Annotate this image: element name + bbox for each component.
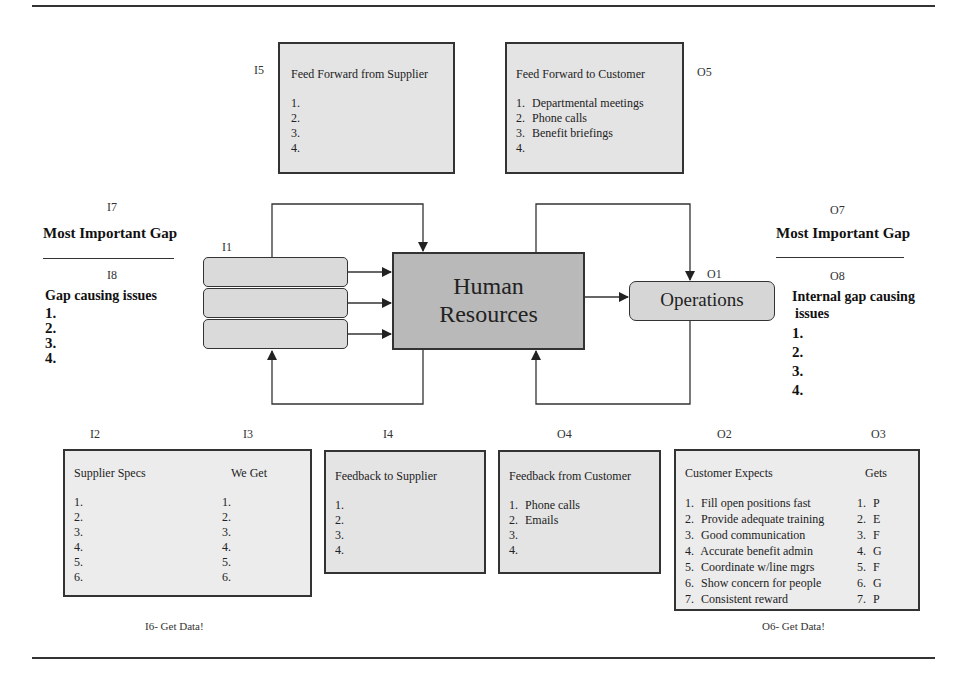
list-item: 6. (74, 570, 83, 585)
list-item: 1. (222, 495, 231, 510)
list-item: 3. (335, 528, 344, 543)
list-item: 5. (74, 555, 83, 570)
feedback-supplier-title: Feedback to Supplier (335, 469, 437, 484)
list-item: 5. Coordinate w/line mgrs (685, 559, 824, 575)
label-o5: O5 (697, 65, 712, 80)
label-o1: O1 (707, 267, 722, 282)
feed-forward-customer-list: 1. Departmental meetings 2. Phone calls … (516, 96, 644, 156)
feed-forward-supplier-title: Feed Forward from Supplier (291, 67, 428, 82)
label-o7: O7 (830, 203, 845, 218)
label-i8: I8 (107, 268, 117, 283)
hr-title-line2: Resources (394, 300, 583, 328)
list-item: 4. (45, 351, 56, 366)
customer-expects-list: 1. Fill open positions fast 2. Provide a… (685, 495, 824, 607)
list-item: 4. Accurate benefit admin (685, 543, 824, 559)
list-item: 6. (222, 570, 231, 585)
list-item: 4. (509, 543, 580, 558)
list-item: 2. (792, 345, 803, 364)
list-item: 3. Good communication (685, 527, 824, 543)
list-item: 1. (291, 96, 300, 111)
supplier-specs-title: Supplier Specs (74, 466, 146, 481)
label-o2: O2 (717, 427, 732, 442)
customer-expects-box: Customer Expects Gets 1. Fill open posit… (674, 449, 920, 611)
list-item: 1. (335, 498, 344, 513)
feedback-supplier-box: Feedback to Supplier 1. 2. 3. 4. (324, 450, 486, 574)
o6-get-data: O6- Get Data! (762, 620, 825, 632)
list-item: 3. (222, 525, 231, 540)
list-item: 3. Benefit briefings (516, 126, 644, 141)
list-item: 4. (291, 141, 300, 156)
label-i7: I7 (107, 200, 117, 215)
list-item: 4. (792, 383, 803, 402)
list-item: 1. P (857, 495, 882, 511)
input-row-3 (203, 319, 348, 349)
list-item: 4. (74, 540, 83, 555)
list-item: 7. P (857, 591, 882, 607)
label-i5: I5 (254, 63, 264, 78)
list-item: 2. (335, 513, 344, 528)
human-resources-box: Human Resources (392, 252, 585, 350)
list-item: 3. (74, 525, 83, 540)
feed-forward-customer-title: Feed Forward to Customer (516, 67, 645, 82)
list-item: 3. (509, 528, 580, 543)
operations-box: Operations (629, 281, 775, 321)
list-item: 4. (516, 141, 644, 156)
feedback-customer-list: 1. Phone calls 2. Emails 3. 4. (509, 498, 580, 558)
input-row-2 (203, 288, 348, 318)
list-item: 1. Departmental meetings (516, 96, 644, 111)
left-gap-list: 1. 2. 3. 4. (45, 306, 56, 366)
right-gap-subtitle-2: issues (795, 306, 829, 322)
list-item: 2. (74, 510, 83, 525)
we-get-list: 1. 2. 3. 4. 5. 6. (222, 495, 231, 585)
label-o8: O8 (830, 269, 845, 284)
list-item: 2. (45, 321, 56, 336)
label-o4: O4 (557, 427, 572, 442)
supplier-specs-box: Supplier Specs We Get 1. 2. 3. 4. 5. 6. … (63, 449, 312, 597)
label-i2: I2 (90, 427, 100, 442)
list-item: 2. Provide adequate training (685, 511, 824, 527)
right-gap-subtitle-1: Internal gap causing (792, 289, 915, 305)
right-gap-title: Most Important Gap (776, 225, 910, 242)
gets-list: 1. P 2. E 3. F 4. G 5. F 6. G 7. P (857, 495, 882, 607)
left-gap-subtitle: Gap causing issues (45, 288, 157, 304)
right-gap-divider (776, 257, 904, 258)
left-gap-title: Most Important Gap (43, 225, 177, 242)
list-item: 5. (222, 555, 231, 570)
left-gap-divider (43, 258, 174, 259)
list-item: 2. E (857, 511, 882, 527)
feedback-customer-box: Feedback from Customer 1. Phone calls 2.… (498, 450, 661, 574)
input-row-1 (203, 257, 348, 287)
feed-forward-supplier-box: Feed Forward from Supplier 1. 2. 3. 4. (278, 42, 455, 174)
list-item: 2. (291, 111, 300, 126)
list-item: 3. (792, 364, 803, 383)
feed-forward-supplier-list: 1. 2. 3. 4. (291, 96, 300, 156)
list-item: 1. (792, 326, 803, 345)
right-gap-list: 1. 2. 3. 4. (792, 326, 803, 402)
list-item: 6. Show concern for people (685, 575, 824, 591)
label-i4: I4 (383, 427, 393, 442)
list-item: 5. F (857, 559, 882, 575)
list-item: 2. Phone calls (516, 111, 644, 126)
customer-expects-title: Customer Expects (685, 466, 773, 481)
feedback-customer-title: Feedback from Customer (509, 469, 631, 484)
list-item: 1. Fill open positions fast (685, 495, 824, 511)
hr-title-line1: Human (394, 272, 583, 300)
gets-title: Gets (865, 466, 887, 481)
list-item: 4. (335, 543, 344, 558)
list-item: 3. (291, 126, 300, 141)
we-get-title: We Get (231, 466, 267, 481)
label-o3: O3 (871, 427, 886, 442)
supplier-specs-list: 1. 2. 3. 4. 5. 6. (74, 495, 83, 585)
list-item: 2. Emails (509, 513, 580, 528)
list-item: 1. Phone calls (509, 498, 580, 513)
list-item: 2. (222, 510, 231, 525)
list-item: 7. Consistent reward (685, 591, 824, 607)
list-item: 6. G (857, 575, 882, 591)
list-item: 4. G (857, 543, 882, 559)
list-item: 3. F (857, 527, 882, 543)
feedback-supplier-list: 1. 2. 3. 4. (335, 498, 344, 558)
list-item: 1. (45, 306, 56, 321)
list-item: 4. (222, 540, 231, 555)
label-i1: I1 (222, 240, 232, 255)
label-i3: I3 (243, 427, 253, 442)
